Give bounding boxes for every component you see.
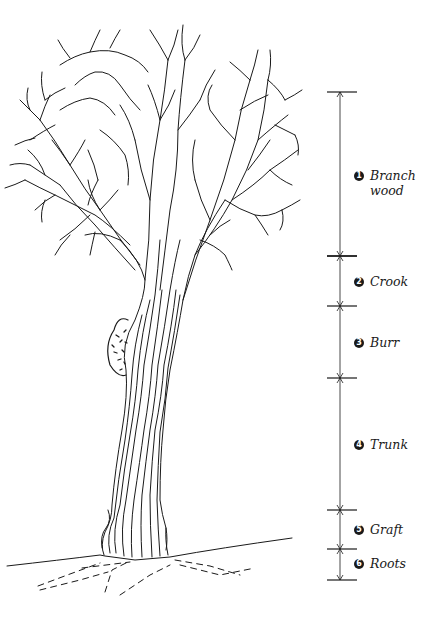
label-text: Branch wood — [370, 168, 416, 198]
number-badge: 5 — [354, 525, 364, 535]
number-badge: 1 — [354, 171, 364, 181]
label-text: Crook — [370, 274, 408, 289]
label-text: Trunk — [370, 437, 408, 452]
label-text: Burr — [370, 335, 399, 350]
number-badge: 6 — [354, 559, 364, 569]
measurement-scale — [327, 92, 357, 580]
number-badge: 2 — [354, 277, 364, 287]
label-text: Roots — [370, 556, 406, 571]
number-badge: 4 — [354, 440, 364, 450]
label-text: Graft — [370, 522, 403, 537]
tree-drawing — [5, 25, 302, 595]
number-badge: 3 — [354, 338, 364, 348]
